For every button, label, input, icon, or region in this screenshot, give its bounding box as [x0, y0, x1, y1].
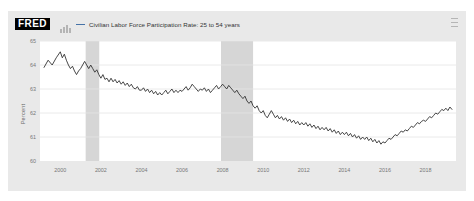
x-axis-tick-label: 2014 [338, 167, 350, 173]
legend-color-swatch [76, 24, 85, 25]
legend-series-label: Civilian Labor Force Participation Rate:… [89, 21, 240, 28]
x-axis-tick-label: 2018 [420, 167, 432, 173]
plot-wrapper: Percent 606162636465 2000200220042006200… [8, 37, 466, 191]
x-axis-tick-label: 2000 [54, 167, 66, 173]
mini-bar-chart-icon [60, 19, 71, 29]
x-axis-tick-label: 2006 [176, 167, 188, 173]
x-axis-tick-label: 2012 [298, 167, 310, 173]
y-axis-tick-label: 64 [30, 62, 36, 68]
x-axis-tick-label: 2016 [379, 167, 391, 173]
y-axis-tick-label: 63 [30, 86, 36, 92]
hamburger-menu-icon[interactable] [451, 18, 458, 27]
y-axis-tick-label: 61 [30, 134, 36, 140]
chart-legend: Civilian Labor Force Participation Rate:… [76, 18, 240, 30]
recession-band [86, 41, 100, 161]
chart-header: FRED Civilian Labor Force Participation … [8, 11, 466, 37]
x-axis-tick-label: 2008 [217, 167, 229, 173]
x-axis-tick-labels: 2000200220042006200820102012201420162018 [40, 165, 456, 177]
recession-band [221, 41, 253, 161]
y-axis-tick-label: 60 [30, 158, 36, 164]
x-axis-tick-label: 2002 [95, 167, 107, 173]
fred-logo: FRED [15, 18, 50, 30]
fred-chart-widget: FRED Civilian Labor Force Participation … [8, 11, 466, 191]
x-axis-tick-label: 2010 [257, 167, 269, 173]
y-axis-tick-labels: 606162636465 [22, 37, 36, 161]
plot-area [40, 41, 456, 161]
y-axis-tick-label: 62 [30, 110, 36, 116]
x-axis-tick-label: 2004 [135, 167, 147, 173]
chart-svg [40, 41, 456, 161]
y-axis-tick-label: 65 [30, 38, 36, 44]
